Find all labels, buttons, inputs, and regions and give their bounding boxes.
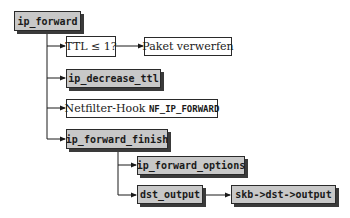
netfilter-hook-code: NF_IP_FORWARD — [149, 104, 219, 114]
node-ip-decrease-ttl: ip_decrease_ttl — [66, 69, 161, 88]
node-ttl-check: TTL ≤ 1? — [66, 36, 116, 57]
node-ip-forward-finish: ip_forward_finish — [66, 129, 168, 149]
netfilter-label-text: Netfilter-Hook — [65, 102, 146, 115]
node-ip-forward-options: ip_forward_options — [137, 156, 245, 175]
node-skb-dst-output: skb->dst->output — [231, 185, 336, 204]
node-ip-forward: ip_forward — [14, 11, 81, 31]
node-paket-verwerfen: Paket verwerfen — [144, 37, 232, 56]
node-netfilter-hook: Netfilter-Hook NF_IP_FORWARD — [66, 99, 218, 118]
call-graph-diagram: ip_forward TTL ≤ 1? Paket verwerfen ip_d… — [0, 0, 350, 218]
node-dst-output: dst_output — [137, 185, 203, 204]
